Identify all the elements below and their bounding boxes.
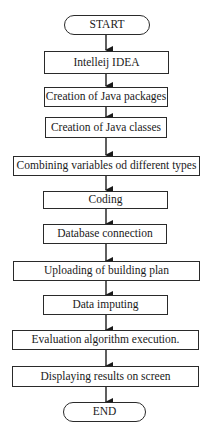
end-terminal: END	[63, 402, 146, 422]
step-label: Data imputing	[72, 299, 138, 311]
step-label: Evaluation algorithm execution.	[32, 334, 180, 346]
step-combine-variables: Combining variables od different types	[13, 156, 200, 176]
step-create-java-packages: Creation of Java packages	[44, 87, 168, 107]
step-intellij-idea: Intelleij IDEA	[44, 51, 169, 74]
step-evaluation-algorithm: Evaluation algorithm execution.	[12, 330, 199, 350]
start-label: START	[90, 19, 125, 31]
step-data-imputing: Data imputing	[43, 295, 168, 315]
step-label: Coding	[89, 194, 123, 206]
step-label: Intelleij IDEA	[73, 57, 139, 69]
step-label: Uploading of building plan	[44, 265, 169, 277]
step-label: Database connection	[57, 228, 152, 240]
step-display-results: Displaying results on screen	[12, 366, 199, 387]
step-label: Creation of Java packages	[46, 91, 166, 103]
step-coding: Coding	[43, 191, 168, 209]
start-terminal: START	[64, 15, 150, 35]
step-create-java-classes: Creation of Java classes	[45, 117, 167, 138]
step-database-connection: Database connection	[43, 224, 167, 244]
step-label: Displaying results on screen	[41, 371, 171, 383]
step-label: Creation of Java classes	[51, 122, 161, 134]
step-label: Combining variables od different types	[17, 160, 197, 172]
end-label: END	[93, 406, 117, 418]
step-upload-building-plan: Uploading of building plan	[13, 261, 200, 281]
